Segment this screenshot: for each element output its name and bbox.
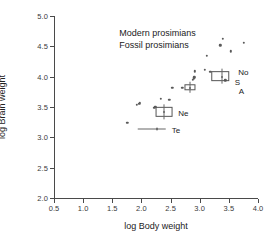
fossil-vertical-bar: [163, 105, 164, 120]
x-tick-mark: [54, 199, 55, 203]
fossil-error-bar: [137, 129, 166, 130]
y-tick-label: 4.5: [37, 42, 48, 51]
error-bar-cap: [156, 128, 157, 131]
data-point: [222, 38, 224, 40]
y-tick-label: 2.5: [37, 163, 48, 172]
scatter-plot-figure: log Brain weight log Body weight 2.02.53…: [0, 0, 271, 241]
y-tick-mark: [50, 77, 54, 78]
x-tick-label: 1.5: [107, 204, 118, 213]
data-point: [219, 44, 221, 46]
fossil-vertical-bar: [189, 82, 190, 92]
data-point: [206, 55, 208, 57]
y-tick-mark: [50, 137, 54, 138]
x-tick-label: 3.0: [194, 204, 205, 213]
data-point: [229, 50, 231, 52]
y-tick-label: 3.0: [37, 133, 48, 142]
x-tick-mark: [229, 199, 230, 203]
x-tick-mark: [112, 199, 113, 203]
x-tick-mark: [83, 199, 84, 203]
legend-modern-prosimians: Modern prosimians: [119, 28, 196, 38]
y-tick-label: 5.0: [37, 12, 48, 21]
y-tick-mark: [50, 107, 54, 108]
data-point: [181, 86, 183, 88]
y-tick-mark: [50, 168, 54, 169]
y-tick-label: 3.5: [37, 103, 48, 112]
x-tick-label: 2.0: [136, 204, 147, 213]
x-tick-label: 2.5: [165, 204, 176, 213]
data-point: [243, 41, 245, 43]
fossil-vertical-bar: [221, 69, 222, 84]
x-tick-label: 1.0: [78, 204, 89, 213]
plot-area: 2.02.53.03.54.04.55.0 0.51.01.52.02.53.0…: [54, 16, 258, 198]
x-axis-title: log Body weight: [124, 221, 188, 231]
fossil-annotation-label: A: [239, 86, 244, 95]
y-tick-label: 4.0: [37, 72, 48, 81]
x-tick-mark: [258, 199, 259, 203]
data-point: [194, 70, 196, 72]
x-tick-label: 4.0: [253, 204, 264, 213]
x-tick-label: 0.5: [49, 204, 60, 213]
data-point: [171, 86, 173, 88]
fossil-errorbar-label: Te: [172, 126, 180, 135]
y-axis-line: [54, 16, 55, 198]
y-axis-title: log Brain weight: [0, 75, 7, 139]
legend-fossil-prosimians: Fossil prosimians: [119, 40, 189, 50]
x-tick-mark: [171, 199, 172, 203]
data-point: [126, 122, 128, 124]
data-point: [168, 99, 170, 101]
y-tick-label: 2.0: [37, 194, 48, 203]
y-tick-mark: [50, 16, 54, 17]
fossil-box-label: Ne: [178, 109, 188, 118]
x-axis-line: [54, 198, 258, 199]
x-tick-mark: [141, 199, 142, 203]
data-point: [204, 69, 206, 71]
x-tick-label: 3.5: [223, 204, 234, 213]
data-point: [159, 97, 161, 99]
y-tick-mark: [50, 46, 54, 47]
x-tick-mark: [200, 199, 201, 203]
fossil-annotation-label: No: [238, 67, 248, 76]
fossil-annotation-label: S: [235, 77, 240, 86]
